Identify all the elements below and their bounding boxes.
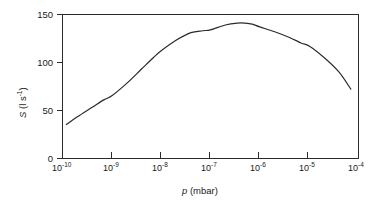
y-axis-ticks [57,15,63,159]
x-tick-label-3: 10-7 [201,164,217,173]
x-tick-label-0: 10-10 [52,164,71,173]
x-tick-exp-2: -8 [162,161,168,168]
x-axis-title-rest: (mbar) [187,185,218,196]
y-tick-label-0: 0 [28,154,53,164]
y-axis-title-rest-open: (l s [17,96,28,111]
y-tick-label-3: 150 [28,10,53,20]
x-tick-exp-5: -5 [309,161,315,168]
y-axis-title: S (l s-1) [18,87,28,118]
x-tick-exp-1: -9 [113,161,119,168]
y-tick-label-1: 50 [28,106,53,116]
data-series-pumping-speed [66,23,350,125]
x-tick-label-6: 10-4 [348,164,364,173]
x-tick-exp-6: -4 [358,161,364,168]
x-tick-label-1: 10-9 [103,164,119,173]
x-tick-exp-0: -10 [62,161,71,168]
x-axis-ticks [112,152,308,158]
x-tick-exp-3: -7 [211,161,217,168]
plot-frame [63,15,359,159]
x-axis-title: p (mbar) [182,186,218,196]
x-tick-exp-4: -6 [260,161,266,168]
y-axis-title-symbol: S [17,112,28,118]
y-tick-label-2: 100 [28,58,53,68]
y-axis-title-rest-close: ) [17,87,28,90]
chart-figure: 10-10 10-9 10-8 10-7 10-6 10-5 10-4 0 50… [0,0,389,213]
x-tick-label-4: 10-6 [250,164,266,173]
chart-plot-area [0,0,389,213]
y-axis-title-exponent: -1 [16,91,23,97]
x-tick-label-5: 10-5 [299,164,315,173]
x-tick-label-2: 10-8 [152,164,168,173]
